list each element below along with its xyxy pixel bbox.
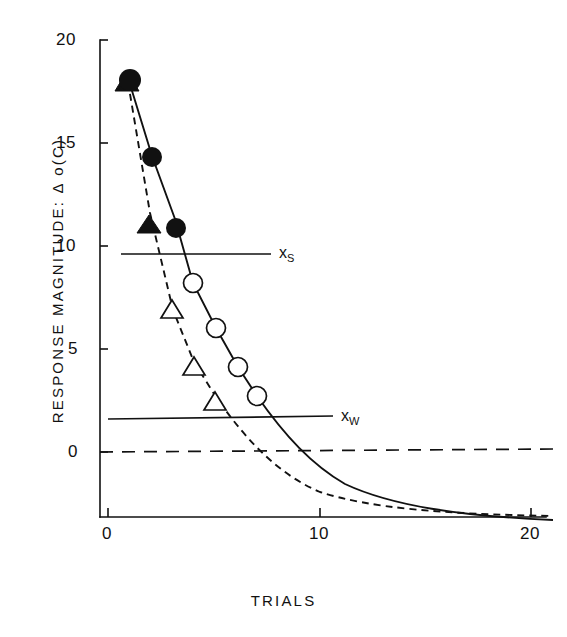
marker-open-triangle-2 (183, 357, 205, 375)
zero-reference-line (100, 449, 553, 452)
marker-open-triangle-3 (204, 392, 226, 410)
marker-filled-triangle-2 (137, 215, 161, 233)
x-axis-ticks (108, 508, 531, 517)
y-axis-ticks (100, 40, 108, 452)
y-tick-label-20: 20 (56, 30, 76, 50)
threshold-strong-sub: S (287, 252, 294, 264)
marker-filled-circle-3 (166, 218, 186, 238)
x-axis-title: TRIALS (0, 592, 567, 609)
threshold-strong-label: xS (279, 244, 294, 264)
y-axis-title: RESPONSE MAGNITUDE: Δ o(C) (49, 106, 66, 456)
marker-open-circle-1 (184, 274, 203, 293)
y-tick-label-5: 5 (68, 339, 78, 359)
weak-open-markers (161, 300, 226, 410)
marker-open-circle-4 (248, 387, 267, 406)
threshold-weak-main: x (341, 407, 349, 424)
marker-open-circle-3 (229, 358, 248, 377)
threshold-strong-main: x (279, 244, 287, 261)
x-tick-label-20: 20 (520, 524, 540, 544)
x-tick-label-10: 10 (309, 524, 329, 544)
marker-open-triangle-1 (161, 300, 183, 318)
marker-open-circle-2 (207, 319, 226, 338)
axis-spines (100, 40, 546, 517)
threshold-line-weak (108, 416, 333, 419)
y-tick-label-0: 0 (68, 442, 78, 462)
threshold-weak-label: xW (341, 407, 359, 427)
strong-open-markers (184, 274, 267, 406)
figure-container: 20 15 10 5 0 0 10 20 RESPONSE MAGNITUDE:… (0, 0, 567, 637)
strong-filled-markers (119, 69, 186, 238)
threshold-weak-sub: W (349, 415, 359, 427)
chart-plot-area (0, 0, 567, 637)
strong-curve-solid (129, 81, 553, 520)
x-tick-label-0: 0 (102, 524, 112, 544)
marker-filled-circle-2 (142, 147, 162, 167)
marker-filled-circle-1 (119, 69, 141, 91)
